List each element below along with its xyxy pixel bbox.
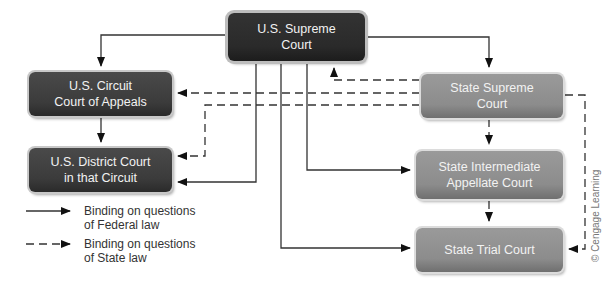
edge-supreme-to-state-supreme	[365, 37, 489, 67]
node-state-trial-court: State Trial Court	[416, 228, 563, 272]
node-label: Appellate Court	[438, 175, 540, 191]
edge-state-supreme-to-trial	[565, 95, 585, 249]
node-us-district-court: U.S. District Courtin that Circuit	[29, 148, 172, 192]
node-us-supreme-court: U.S. SupremeCourt	[228, 13, 365, 61]
edge-supreme-to-circuit	[101, 35, 228, 66]
legend-line2: of Federal law	[84, 218, 195, 232]
node-state-supreme-court: State SupremeCourt	[421, 74, 563, 118]
legend-solid-label: Binding on questions of Federal law	[84, 204, 195, 232]
copyright-credit: © Cengage Learning	[590, 170, 601, 262]
node-label: Court	[450, 96, 533, 112]
edge-state-supreme-to-supreme	[334, 68, 420, 80]
legend-dashed-label: Binding on questions of State law	[84, 237, 195, 265]
node-label: U.S. Supreme	[257, 21, 336, 37]
node-label: U.S. Circuit	[54, 78, 146, 94]
edge-supreme-to-state-intermediate	[307, 62, 410, 170]
legend-line1: Binding on questions	[84, 237, 195, 251]
node-label: State Intermediate	[438, 159, 540, 175]
legend-line2: of State law	[84, 251, 195, 265]
edge-supreme-to-state-trial	[281, 62, 410, 248]
legend-line1: Binding on questions	[84, 204, 195, 218]
node-label: State Trial Court	[444, 242, 534, 258]
node-label: in that Circuit	[50, 170, 150, 186]
node-label: Court	[257, 37, 336, 53]
edge-supreme-to-district	[178, 62, 256, 182]
node-label: U.S. District Court	[50, 154, 150, 170]
node-label: State Supreme	[450, 80, 533, 96]
node-us-circuit-court: U.S. CircuitCourt of Appeals	[29, 72, 172, 116]
node-label: Court of Appeals	[54, 94, 146, 110]
node-state-intermediate-court: State IntermediateAppellate Court	[416, 151, 563, 199]
edge-state-supreme-to-district	[178, 105, 420, 156]
